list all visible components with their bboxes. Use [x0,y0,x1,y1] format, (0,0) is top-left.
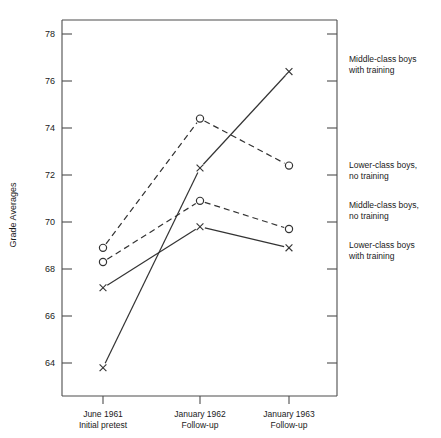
line-chart-plot: Grade Averages 78 76 74 72 70 68 [0,0,441,438]
y-tick-label-70: 70 [45,217,55,227]
series-3-marker-1 [197,223,204,230]
x-tick-label-2-line2: Follow-up [271,420,308,430]
series-3-marker-2 [286,244,293,251]
series-1-marker-2 [285,162,292,169]
y-tick-label-66: 66 [45,311,55,321]
legend-series-1-line1: Lower-class boys, [349,160,417,170]
y-tick-label-74: 74 [45,123,55,133]
series-3-marker-0 [100,284,107,291]
y-tick-label-68: 68 [45,264,55,274]
y-tick-label-72: 72 [45,170,55,180]
series-2-segment-0 [107,204,196,260]
legend-series-1-line2: no training [349,171,389,181]
series-0-segment-1 [203,75,285,164]
y-tick-label-76: 76 [45,76,55,86]
legend-group: Middle-class boys with training Lower-cl… [348,54,419,261]
y-tick-label-78: 78 [45,29,55,39]
y-axis-title: Grade Averages [8,182,18,247]
legend-series-3-line1: Lower-class boys [349,240,415,250]
series-2-marker-1 [196,197,203,204]
series-0-marker-1 [197,165,204,172]
legend-series-2-line1: Middle-class boys, [349,200,419,210]
legend-series-3-line2: with training [348,251,395,261]
legend-series-2-line2: no training [349,211,389,221]
series-1-segment-0 [106,123,197,244]
series-0-marker-2 [286,68,293,75]
series-3-segment-1 [205,228,284,247]
series-0-marker-0 [100,364,107,371]
series-1-marker-1 [196,115,203,122]
series-1-marker-0 [99,244,106,251]
y-tick-group: 78 76 74 72 70 68 66 64 [45,29,337,368]
x-tick-label-2-line1: January 1963 [263,409,315,419]
x-tick-label-0-line1: June 1961 [83,409,123,419]
x-tick-label-1-line1: January 1962 [174,409,226,419]
x-tick-group: June 1961 Initial pretest January 1962 F… [79,396,315,430]
legend-series-0-line1: Middle-class boys [349,54,417,64]
series-3-segment-0 [107,229,196,285]
series-layer [99,68,292,371]
x-tick-label-0-line2: Initial pretest [79,420,128,430]
series-2-segment-1 [205,202,284,227]
series-2-marker-0 [99,258,106,265]
series-1-segment-1 [204,121,284,163]
series-2-marker-2 [285,225,292,232]
y-tick-label-64: 64 [45,358,55,368]
legend-series-0-line2: with training [348,65,395,75]
x-tick-label-1-line2: Follow-up [182,420,219,430]
series-0-segment-0 [105,172,198,363]
chart-container: Grade Averages 78 76 74 72 70 68 [0,0,441,438]
